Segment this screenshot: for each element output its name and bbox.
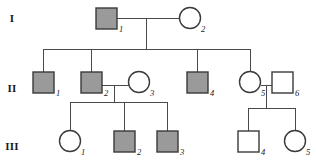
individual-III-1-female-unaffected [60, 131, 81, 152]
individual-label-II-4: 4 [210, 88, 215, 98]
individual-label-III-1: 1 [81, 147, 85, 157]
individual-III-2-male-affected [114, 131, 135, 152]
individual-label-III-5: 5 [306, 147, 310, 157]
generation-labels-layer: IIIIII [5, 12, 18, 152]
individual-II-4-male-affected [187, 72, 208, 93]
individual-label-III-4: 4 [261, 147, 266, 157]
individual-II-6-male-unaffected [272, 72, 293, 93]
individual-III-3-male-affected [157, 131, 178, 152]
individual-II-1-male-affected [33, 72, 54, 93]
individual-III-5-female-unaffected [285, 131, 306, 152]
pedigree-chart: 1212345612345 IIIIII [0, 0, 316, 167]
individual-label-III-3: 3 [179, 147, 184, 157]
generation-label-I: I [10, 12, 14, 24]
individual-label-III-2: 2 [137, 147, 142, 157]
symbols-layer [33, 8, 306, 153]
individual-II-3-female-unaffected [129, 72, 150, 93]
generation-label-II: II [8, 82, 17, 94]
individual-label-II-2: 2 [104, 88, 109, 98]
individual-label-I-2: 2 [201, 24, 206, 34]
individual-I-2-female-unaffected [180, 8, 201, 29]
individual-label-II-1: 1 [56, 88, 60, 98]
individual-I-1-male-affected [96, 8, 117, 29]
individual-II-2-male-affected [81, 72, 102, 93]
pedigree-svg: 1212345612345 IIIIII [0, 0, 316, 167]
individual-label-II-6: 6 [295, 88, 300, 98]
individual-label-II-5: 5 [261, 88, 265, 98]
individual-II-5-female-unaffected [240, 72, 261, 93]
individual-label-I-1: 1 [119, 24, 123, 34]
individual-label-II-3: 3 [149, 88, 154, 98]
generation-label-III: III [5, 140, 18, 152]
individual-III-4-male-unaffected [238, 131, 259, 152]
